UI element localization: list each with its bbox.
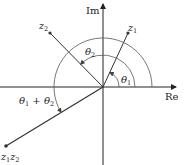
z2-point <box>48 31 51 34</box>
complex-plane-diagram: Im Re z1 z2 z1z2 θ1 θ2 θ1 + θ2 <box>0 0 184 165</box>
z2-vector <box>50 33 103 87</box>
imaginary-axis-label: Im <box>86 5 100 16</box>
product-point <box>4 144 8 148</box>
theta1-arc <box>110 73 119 88</box>
z2-label: z2 <box>38 20 48 33</box>
theta2-label: θ2 <box>85 46 95 59</box>
sum-angle-label: θ1 + θ2 <box>19 95 54 108</box>
theta1-label: θ1 <box>121 74 131 87</box>
product-label: z1z2 <box>0 151 19 164</box>
real-axis-label: Re <box>165 91 179 102</box>
